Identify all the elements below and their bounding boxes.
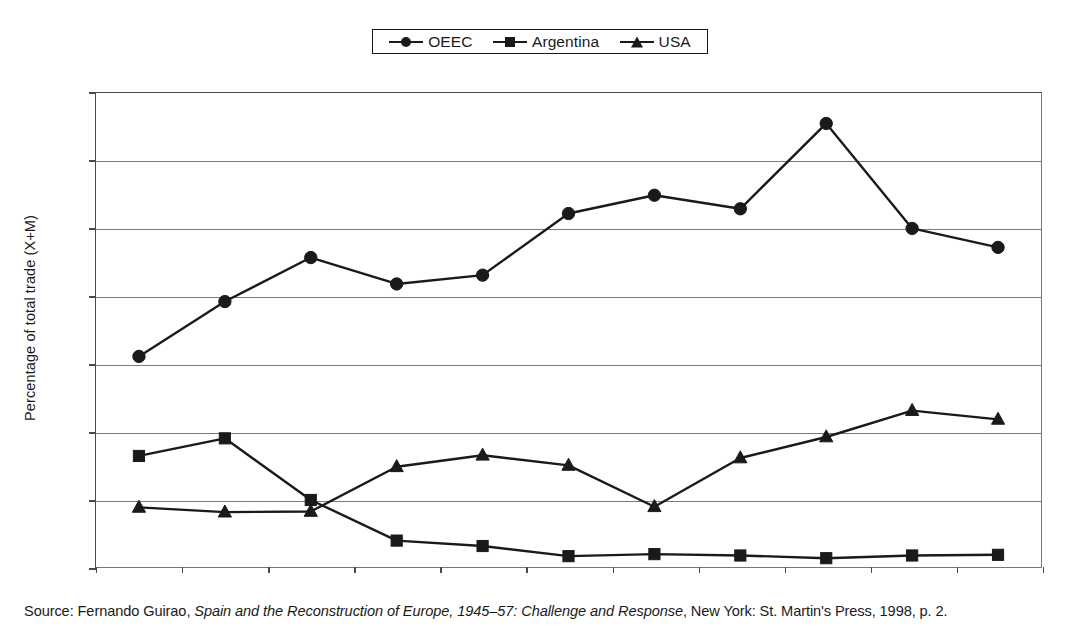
x-tick-mark bbox=[354, 567, 355, 573]
legend-entry-usa: USA bbox=[620, 33, 691, 51]
data-point bbox=[906, 403, 919, 415]
plot-area: 010203040506070 194719481949195019511952… bbox=[95, 92, 1042, 568]
data-point bbox=[133, 450, 144, 461]
y-tick-mark bbox=[89, 160, 96, 161]
legend-entry-argentina: Argentina bbox=[493, 33, 599, 51]
data-point bbox=[391, 535, 402, 546]
series-argentina bbox=[133, 433, 1003, 564]
legend-label-oeec: OEEC bbox=[428, 33, 472, 51]
data-point bbox=[305, 251, 317, 263]
y-tick-mark bbox=[89, 500, 96, 501]
y-tick-mark bbox=[89, 364, 96, 365]
x-tick-mark bbox=[182, 567, 183, 573]
legend-label-usa: USA bbox=[659, 33, 691, 51]
x-tick-mark bbox=[526, 567, 527, 573]
data-point bbox=[907, 550, 918, 561]
square-marker-icon bbox=[493, 35, 527, 49]
x-tick-mark bbox=[440, 567, 441, 573]
y-tick-mark bbox=[89, 92, 96, 93]
data-point bbox=[219, 433, 230, 444]
data-point bbox=[390, 278, 402, 290]
data-point bbox=[992, 241, 1004, 253]
series-usa bbox=[132, 403, 1004, 517]
data-point bbox=[476, 448, 489, 460]
x-tick-mark bbox=[1043, 567, 1044, 573]
y-tick-mark bbox=[89, 296, 96, 297]
source-caption: Source: Fernando Guirao, Spain and the R… bbox=[24, 603, 1064, 619]
data-point bbox=[132, 500, 145, 512]
x-tick-mark bbox=[613, 567, 614, 573]
source-suffix: , New York: St. Martin's Press, 1998, p.… bbox=[683, 603, 948, 619]
y-tick-mark bbox=[89, 228, 96, 229]
legend-label-argentina: Argentina bbox=[532, 33, 599, 51]
data-point bbox=[992, 549, 1003, 560]
data-point bbox=[477, 540, 488, 551]
data-point bbox=[563, 551, 574, 562]
data-point bbox=[219, 295, 231, 307]
y-axis-title: Percentage of total trade (X+M) bbox=[22, 68, 46, 568]
data-point bbox=[649, 549, 660, 560]
data-point bbox=[133, 350, 145, 362]
chart-legend: OEEC Argentina USA bbox=[372, 29, 708, 54]
series-line bbox=[139, 123, 998, 356]
legend-entry-oeec: OEEC bbox=[389, 33, 472, 51]
series-line bbox=[139, 438, 998, 558]
chart-page: OEEC Argentina USA Percentage of total t… bbox=[0, 0, 1079, 638]
y-tick-mark bbox=[89, 568, 96, 569]
series-layer bbox=[96, 93, 1041, 567]
x-tick-mark bbox=[957, 567, 958, 573]
data-point bbox=[734, 203, 746, 215]
data-point bbox=[821, 553, 832, 564]
source-title: Spain and the Reconstruction of Europe, … bbox=[194, 603, 683, 619]
circle-marker-icon bbox=[389, 35, 423, 49]
data-point bbox=[820, 117, 832, 129]
data-point bbox=[906, 222, 918, 234]
data-point bbox=[648, 189, 660, 201]
x-tick-mark bbox=[785, 567, 786, 573]
y-tick-mark bbox=[89, 432, 96, 433]
data-point bbox=[735, 550, 746, 561]
triangle-marker-icon bbox=[620, 35, 654, 49]
x-tick-mark bbox=[268, 567, 269, 573]
data-point bbox=[476, 269, 488, 281]
source-prefix: Source: Fernando Guirao, bbox=[24, 603, 194, 619]
series-oeec bbox=[133, 117, 1004, 362]
x-tick-mark bbox=[96, 567, 97, 573]
x-tick-mark bbox=[871, 567, 872, 573]
data-point bbox=[562, 207, 574, 219]
x-tick-mark bbox=[699, 567, 700, 573]
